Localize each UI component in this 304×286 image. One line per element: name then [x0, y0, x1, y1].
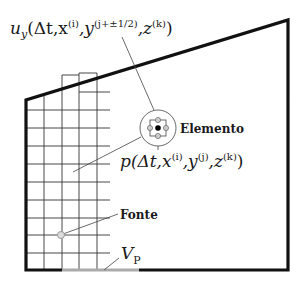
- grid: [26, 73, 110, 270]
- vp-label: VP: [121, 243, 141, 267]
- fonte-label: Fonte: [120, 208, 158, 222]
- source-marker: [58, 232, 65, 239]
- uy-leader: [122, 37, 157, 117]
- element-detail: [140, 110, 176, 146]
- node-west: [147, 125, 152, 130]
- node-center: [155, 125, 161, 131]
- node-north: [155, 117, 160, 122]
- fdtd-diagram: uy(Δt,x(i),y(j+±1/2),z(k)) Elemento p(Δt…: [0, 0, 304, 286]
- vp-leader: [104, 258, 119, 270]
- node-south: [155, 133, 160, 138]
- node-east: [163, 125, 168, 130]
- fonte-leader: [63, 214, 118, 234]
- uy-label: uy(Δt,x(i),y(j+±1/2),z(k)): [10, 18, 173, 41]
- elemento-label: Elemento: [180, 122, 244, 136]
- p-label: p(Δt,x(i),y(j),z(k)): [120, 151, 243, 171]
